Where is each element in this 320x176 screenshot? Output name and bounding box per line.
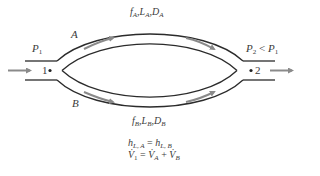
branch-b-properties: fB,LB,DB — [132, 116, 165, 128]
branch-a-properties: fA,LA,DA — [130, 7, 163, 19]
flow-rate-equation: V̇1 = V̇A + V̇B — [128, 150, 180, 162]
node-2-label: 2 — [255, 65, 261, 76]
node-1-dot — [48, 69, 51, 72]
node-2-pressure-label: P2 < P1 — [246, 43, 278, 56]
node-2-dot — [249, 69, 252, 72]
branch-a-label: A — [71, 29, 78, 40]
branch-b-label: B — [72, 98, 79, 109]
node-1-label: 1 — [42, 65, 48, 76]
node-1-pressure-label: P1 — [32, 43, 42, 56]
